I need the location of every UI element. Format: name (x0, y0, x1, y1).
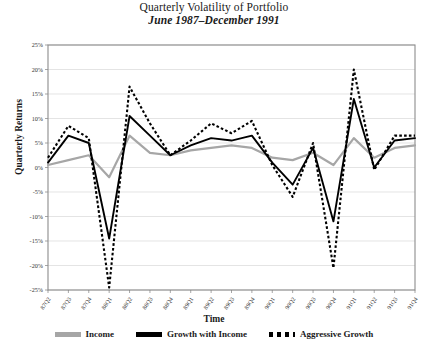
x-tick-label: 89Q4 (243, 296, 256, 310)
legend-label: Growth with Income (167, 329, 247, 339)
legend-swatch-icon (269, 332, 295, 337)
y-tick-label: 10% (32, 115, 43, 122)
y-tick-label: -25% (30, 286, 43, 293)
x-tick-label: 87Q3 (60, 296, 73, 310)
x-tick-label: 88Q2 (121, 296, 134, 310)
legend-label: Income (86, 329, 115, 339)
x-tick-label: 88Q4 (162, 296, 175, 310)
x-tick-label: 87Q4 (80, 296, 93, 310)
x-tick-label: 89Q2 (202, 296, 215, 310)
y-tick-label: -10% (30, 213, 43, 220)
x-tick-label: 90Q2 (284, 296, 297, 310)
x-tick-label: 88Q3 (141, 296, 154, 310)
x-tick-label: 91Q4 (406, 296, 419, 310)
y-tick-label: 25% (32, 41, 43, 48)
x-tick-label: 89Q1 (182, 296, 195, 310)
chart-legend: IncomeGrowth with IncomeAggressive Growt… (0, 329, 428, 339)
y-tick-label: -20% (30, 262, 43, 269)
y-tick-label: 5% (35, 139, 43, 146)
y-tick-label: 15% (32, 90, 43, 97)
legend-item: Aggressive Growth (269, 329, 373, 339)
x-tick-label: 89Q3 (223, 296, 236, 310)
legend-swatch-icon (136, 332, 162, 337)
y-tick-label: 20% (32, 66, 43, 73)
legend-label: Aggressive Growth (300, 329, 373, 339)
x-tick-label: 90Q4 (325, 296, 338, 310)
legend-swatch-icon (55, 332, 81, 337)
plot-area: 25%20%15%10%5%0%-5%-10%-15%-20%-25%87Q28… (0, 0, 428, 346)
x-tick-label: 88Q1 (100, 296, 113, 310)
x-tick-label: 91Q1 (345, 296, 358, 310)
y-tick-label: -15% (30, 237, 43, 244)
y-tick-label: -5% (33, 188, 43, 195)
legend-item: Growth with Income (136, 329, 247, 339)
x-tick-label: 90Q3 (304, 296, 317, 310)
x-tick-label: 90Q1 (264, 296, 277, 310)
x-tick-label: 91Q2 (365, 296, 378, 310)
x-tick-label: 91Q3 (386, 296, 399, 310)
chart-figure: Quarterly Volatility of Portfolio June 1… (0, 0, 428, 346)
y-tick-label: 0% (35, 164, 43, 171)
legend-item: Income (55, 329, 115, 339)
x-tick-label: 87Q2 (39, 296, 52, 310)
